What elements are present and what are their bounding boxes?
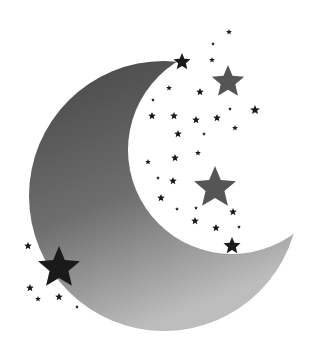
crescent-moon-with-stars [0, 0, 322, 350]
moon-illustration [0, 0, 322, 350]
crescent-moon-shape [29, 61, 299, 331]
